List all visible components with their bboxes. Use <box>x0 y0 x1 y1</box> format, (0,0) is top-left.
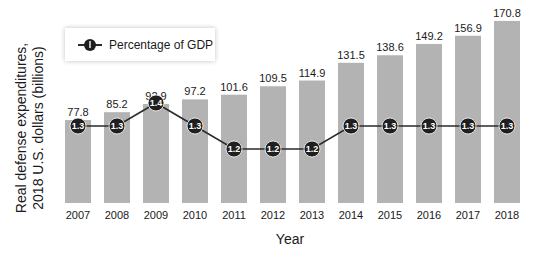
bar-value-label-2014: 131.5 <box>337 49 365 61</box>
gdp-marker-2018: 1.3 <box>499 118 515 134</box>
bar-value-label-2017: 156.9 <box>454 22 482 34</box>
x-tick-label-2009: 2009 <box>144 209 168 221</box>
gdp-marker-2017: 1.3 <box>460 118 476 134</box>
bar-value-label-2008: 85.2 <box>106 98 127 110</box>
gdp-marker-2012: 1.2 <box>265 141 281 157</box>
svg-text:1.4: 1.4 <box>150 98 163 108</box>
x-axis-title: Year <box>276 231 305 247</box>
svg-text:1.3: 1.3 <box>462 121 475 131</box>
x-tick-label-2016: 2016 <box>417 209 441 221</box>
gdp-marker-2010: 1.3 <box>187 118 203 134</box>
bar-value-label-2010: 97.2 <box>184 85 205 97</box>
gdp-marker-2014: 1.3 <box>343 118 359 134</box>
x-tick-label-2008: 2008 <box>105 209 129 221</box>
y-axis-title-line-1: Real defense expenditures, <box>13 43 29 213</box>
bar-2018 <box>494 21 520 203</box>
x-tick-label-2015: 2015 <box>378 209 402 221</box>
bar-value-label-2015: 138.6 <box>376 41 404 53</box>
y-axis-title-line-2: 2018 U.S. dollars (billions) <box>30 46 46 209</box>
svg-text:1.3: 1.3 <box>501 121 514 131</box>
svg-text:1.3: 1.3 <box>423 121 436 131</box>
bar-value-label-2016: 149.2 <box>415 30 443 42</box>
x-tick-label-2012: 2012 <box>261 209 285 221</box>
bar-value-label-2013: 114.9 <box>299 67 326 79</box>
x-tick-label-2014: 2014 <box>339 209 363 221</box>
bar-value-label-2011: 101.6 <box>220 81 248 93</box>
gdp-percentage-line-series: 1.31.31.41.31.21.21.21.31.31.31.31.3 <box>70 95 515 157</box>
x-tick-label-2018: 2018 <box>495 209 519 221</box>
x-tick-label-2007: 2007 <box>66 209 90 221</box>
x-tick-label-2017: 2017 <box>456 209 480 221</box>
bar-2010 <box>182 99 208 203</box>
gdp-marker-2013: 1.2 <box>304 141 320 157</box>
gdp-marker-2016: 1.3 <box>421 118 437 134</box>
defense-expenditure-chart: Real defense expenditures, 2018 U.S. dol… <box>0 0 541 258</box>
gdp-marker-2007: 1.3 <box>70 118 86 134</box>
bar-2009 <box>143 104 169 203</box>
svg-text:1.2: 1.2 <box>228 144 241 154</box>
gdp-marker-2009: 1.4 <box>148 95 164 111</box>
y-axis-title: Real defense expenditures, 2018 U.S. dol… <box>13 43 46 213</box>
bar-value-label-2012: 109.5 <box>259 72 287 84</box>
svg-text:1.3: 1.3 <box>384 121 397 131</box>
svg-text:1.3: 1.3 <box>345 121 358 131</box>
gdp-marker-2015: 1.3 <box>382 118 398 134</box>
gdp-line <box>78 103 507 149</box>
legend-label-percentage-of-gdp: Percentage of GDP <box>109 38 213 52</box>
legend: Percentage of GDP <box>65 28 215 61</box>
bar-value-label-2018: 170.8 <box>493 7 521 19</box>
bar-value-labels: 77.885.292.997.2101.6109.5114.9131.5138.… <box>67 7 520 118</box>
x-tick-label-2011: 2011 <box>222 209 246 221</box>
bar-value-label-2007: 77.8 <box>67 106 88 118</box>
svg-text:1.3: 1.3 <box>189 121 202 131</box>
gdp-marker-2011: 1.2 <box>226 141 242 157</box>
gdp-marker-2008: 1.3 <box>109 118 125 134</box>
svg-text:1.2: 1.2 <box>306 144 319 154</box>
svg-text:1.3: 1.3 <box>111 121 124 131</box>
x-tick-label-2013: 2013 <box>300 209 324 221</box>
svg-text:1.3: 1.3 <box>72 121 85 131</box>
x-axis-tick-labels: 2007200820092010201120122013201420152016… <box>66 209 519 221</box>
svg-text:1.2: 1.2 <box>267 144 280 154</box>
x-tick-label-2010: 2010 <box>183 209 207 221</box>
